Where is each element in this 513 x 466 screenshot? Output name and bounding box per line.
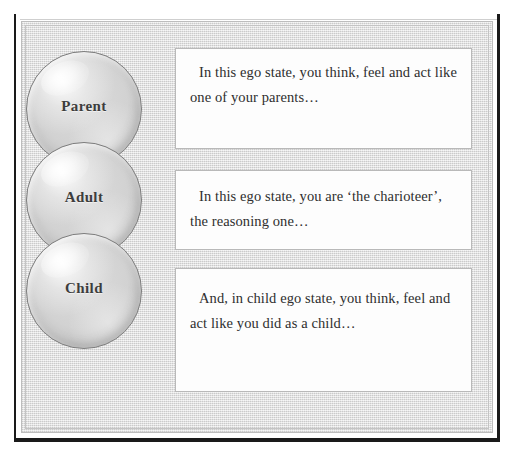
description-box-adult: In this ego state, you are ‘the chariote…	[175, 170, 472, 250]
description-text-child: And, in child ego state, you think, feel…	[176, 269, 471, 336]
ego-state-label-adult: Adult	[26, 189, 142, 206]
frame-rule-left	[14, 14, 16, 440]
description-text-adult: In this ego state, you are ‘the chariote…	[176, 171, 471, 234]
frame-top-hairline	[20, 19, 497, 20]
frame-rule-right	[497, 14, 500, 440]
frame-rule-bottom	[14, 438, 500, 442]
ego-state-sphere-stack: Parent Adult Child	[26, 30, 154, 350]
scan-artifact-mark: ··	[432, 427, 441, 438]
ego-state-label-child: Child	[26, 280, 142, 297]
scanned-figure: ·· Parent Adult Child In this ego state,…	[0, 0, 513, 466]
description-box-child: And, in child ego state, you think, feel…	[175, 268, 472, 392]
description-box-parent: In this ego state, you think, feel and a…	[175, 48, 472, 149]
ego-state-label-parent: Parent	[26, 98, 142, 115]
description-text-parent: In this ego state, you think, feel and a…	[176, 49, 471, 110]
